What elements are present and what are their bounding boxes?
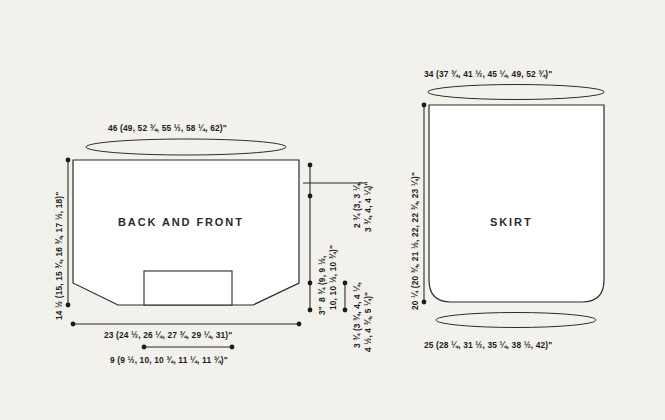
- dim-line-back-front-armhole: [343, 281, 348, 313]
- dim-label-back-front-armhole-line2: 4 ½, 4 ¾, 5 ¼)": [363, 292, 374, 352]
- schematic-diagram: BACK AND FRONT SKIRT 46 (49, 52 ¾, 55 ½,…: [0, 0, 665, 420]
- back-and-front-slit-rectangle: [144, 271, 232, 305]
- skirt-panel-outline: [429, 105, 604, 302]
- dim-line-back-front-bottom-width: [71, 322, 302, 327]
- dim-label-back-front-side-height-line1: 8 ¾ (9, 9 ½,: [317, 256, 328, 303]
- dim-label-back-front-side-height-line2: 10, 10 ½, 10 ¾)": [328, 245, 339, 310]
- dim-line-back-front-right-side: [308, 163, 313, 313]
- panel-title-skirt: SKIRT: [490, 216, 533, 228]
- dim-label-back-front-shoulder-line2: 3 ¾, 4, 4 ¼)": [363, 181, 374, 232]
- schematic-drawing-layer: [0, 0, 665, 420]
- panel-title-back-and-front: BACK AND FRONT: [118, 216, 244, 228]
- skirt-top-ellipse: [428, 85, 604, 100]
- dim-label-back-front-left-height: 14 ½ (15, 15 ¾, 16 ¾, 17 ½, 18)": [54, 192, 65, 320]
- dim-label-skirt-top-width: 34 (37 ¾, 41 ½, 45 ¼, 49, 52 ¾)": [424, 69, 552, 80]
- dim-label-back-front-bottom-width: 23 (24 ½, 26 ¼, 27 ¾, 29 ¼, 31)": [104, 330, 232, 341]
- dim-label-skirt-left-height: 20 ¼ (20 ¾, 21 ½, 22, 22 ¾, 23 ¼)": [410, 172, 421, 310]
- dim-label-back-front-hem-height: 3": [317, 306, 328, 315]
- dim-line-back-front-left-height: [66, 158, 71, 308]
- dim-label-skirt-bottom-width: 25 (28 ¼, 31 ½, 35 ¼, 38 ½, 42)": [424, 340, 552, 351]
- dim-label-back-front-shoulder-line1: 2 ¾ (3, 3 ¼,: [352, 182, 363, 229]
- dim-line-back-front-slit-width: [142, 345, 235, 350]
- dim-line-skirt-left-height: [422, 103, 427, 305]
- dim-label-back-front-armhole-line1: 3 ¾ (3 ¾, 4, 4 ¼,: [352, 282, 363, 348]
- back-and-front-top-ellipse: [86, 139, 286, 155]
- dim-label-back-front-slit-width: 9 (9 ½, 10, 10 ¾, 11 ¼, 11 ¾)": [110, 355, 228, 366]
- skirt-bottom-ellipse: [436, 313, 596, 328]
- dim-label-back-front-top-width: 46 (49, 52 ¾, 55 ½, 58 ¼, 62)": [108, 123, 227, 134]
